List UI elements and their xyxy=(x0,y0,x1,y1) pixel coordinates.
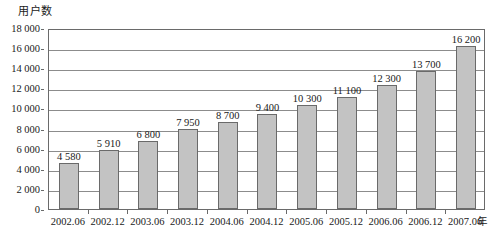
y-axis-tick-label: 14 000 xyxy=(11,64,40,74)
bar-value-label: 8 700 xyxy=(216,110,240,121)
x-axis-tick-label: 2002.12 xyxy=(91,216,125,228)
bar[interactable] xyxy=(138,141,158,209)
bar-value-label: 13 700 xyxy=(412,59,441,70)
x-axis-tick-mark xyxy=(366,210,367,214)
x-axis-tick-label: 2004.06 xyxy=(210,216,244,228)
bar-value-label: 6 800 xyxy=(137,129,161,140)
bar-value-label: 4 580 xyxy=(57,151,81,162)
bar[interactable] xyxy=(178,129,198,209)
y-axis-tick-mark xyxy=(41,190,44,191)
bar-value-label: 10 300 xyxy=(293,93,322,104)
y-axis-tick-mark xyxy=(41,109,44,110)
y-axis-tick-mark xyxy=(41,89,44,90)
y-axis-tick-mark xyxy=(41,69,44,70)
y-axis-tick-group: 02 0004 0006 0008 00010 00012 00014 0001… xyxy=(0,29,44,210)
y-axis-tick-mark xyxy=(41,29,44,30)
bar[interactable] xyxy=(257,114,277,209)
x-axis-tick-mark xyxy=(286,210,287,214)
x-axis-tick-label: 2004.12 xyxy=(249,216,283,228)
bar-value-label: 5 910 xyxy=(97,138,121,149)
bar[interactable] xyxy=(218,122,238,209)
y-axis-tick-mark xyxy=(41,49,44,50)
y-axis-tick-mark xyxy=(41,150,44,151)
bar[interactable] xyxy=(59,163,79,209)
bar-slot: 7 950 xyxy=(168,30,208,209)
y-axis-tick-label: 0 xyxy=(35,205,40,215)
bar-slot: 16 200 xyxy=(446,30,486,209)
y-axis-tick-mark xyxy=(41,170,44,171)
bar-slot: 5 910 xyxy=(89,30,129,209)
bar-value-label: 11 100 xyxy=(333,85,362,96)
plot-area: 4 5805 9106 8007 9508 7009 40010 30011 1… xyxy=(48,29,485,210)
y-axis-tick-label: 16 000 xyxy=(11,44,40,54)
x-axis-tick-label: 2006.12 xyxy=(408,216,442,228)
bar-slot: 11 100 xyxy=(327,30,367,209)
bar[interactable] xyxy=(99,150,119,209)
bar-slot: 10 300 xyxy=(287,30,327,209)
y-axis-tick-label: 12 000 xyxy=(11,84,40,94)
x-axis-tick-mark xyxy=(167,210,168,214)
bar-slot: 8 700 xyxy=(208,30,248,209)
x-axis-tick-mark xyxy=(127,210,128,214)
bar-chart: 用户数 02 0004 0006 0008 00010 00012 00014 … xyxy=(0,0,495,249)
x-axis-tick-label: 2002.06 xyxy=(51,216,85,228)
bar-slot: 12 300 xyxy=(367,30,407,209)
y-axis-title: 用户数 xyxy=(18,2,53,18)
bar-slot: 13 700 xyxy=(407,30,447,209)
y-axis-tick-mark xyxy=(41,130,44,131)
y-axis-tick-label: 2 000 xyxy=(16,185,40,195)
bar-value-label: 12 300 xyxy=(372,73,401,84)
x-axis-tick-label: 2005.06 xyxy=(289,216,323,228)
bar-slot: 9 400 xyxy=(248,30,288,209)
bar[interactable] xyxy=(377,85,397,209)
y-axis-tick-label: 4 000 xyxy=(16,165,40,175)
x-axis-tick-mark xyxy=(445,210,446,214)
y-axis-tick-label: 6 000 xyxy=(16,145,40,155)
x-axis-tick-mark xyxy=(326,210,327,214)
bar-value-label: 7 950 xyxy=(176,117,200,128)
y-axis-tick-mark xyxy=(41,210,44,211)
y-axis-tick-label: 8 000 xyxy=(16,125,40,135)
x-axis-tick-label: 2003.12 xyxy=(170,216,204,228)
bar[interactable] xyxy=(416,71,436,209)
x-axis-tick-mark xyxy=(88,210,89,214)
bar[interactable] xyxy=(456,46,476,209)
bar-slot: 6 800 xyxy=(128,30,168,209)
x-axis-tick-mark xyxy=(406,210,407,214)
bar-value-label: 16 200 xyxy=(452,34,481,45)
x-axis-unit-label: 年 xyxy=(477,216,487,228)
bar[interactable] xyxy=(297,105,317,209)
bar-value-label: 9 400 xyxy=(256,102,280,113)
bar[interactable] xyxy=(337,97,357,209)
x-axis-tick-mark xyxy=(207,210,208,214)
y-axis-tick-label: 10 000 xyxy=(11,104,40,114)
x-axis-tick-mark xyxy=(247,210,248,214)
y-axis-tick-label: 18 000 xyxy=(11,24,40,34)
bar-slot: 4 580 xyxy=(49,30,89,209)
x-axis-tick-label: 2003.06 xyxy=(130,216,164,228)
x-axis-tick-label: 2005.12 xyxy=(329,216,363,228)
x-axis-tick-label: 2006.06 xyxy=(369,216,403,228)
